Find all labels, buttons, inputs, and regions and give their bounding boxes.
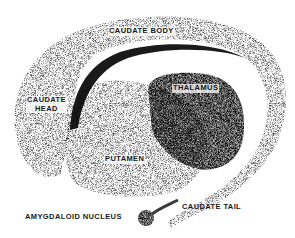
- label-caudate-head: CAUDATE HEAD: [26, 96, 67, 113]
- label-caudate-head-line2: HEAD: [27, 105, 66, 114]
- label-caudate-tail: CAUDATE TAIL: [182, 203, 241, 212]
- basal-ganglia-illustration: [0, 0, 295, 238]
- label-caudate-body: CAUDATE BODY: [108, 27, 175, 36]
- label-amygdaloid-nucleus: AMYGDALOID NUCLEUS: [25, 213, 122, 222]
- label-thalamus: THALAMUS: [172, 84, 219, 93]
- label-putamen: PUTAMEN: [104, 155, 145, 164]
